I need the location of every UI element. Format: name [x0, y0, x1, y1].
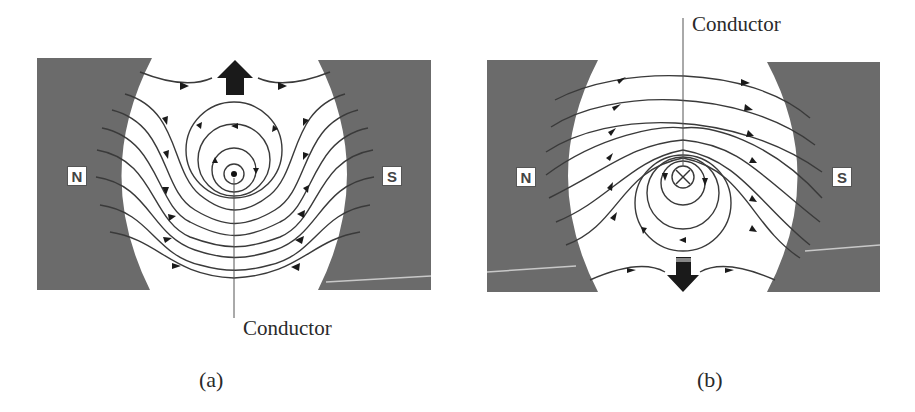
pole-label-north-b: N — [516, 167, 536, 187]
caption-b: (b) — [697, 369, 723, 391]
caption-a: (a) — [199, 369, 223, 391]
magnet-south-b — [767, 62, 880, 292]
diagram-canvas — [0, 0, 915, 412]
conductor-dot-a — [231, 171, 237, 177]
conductor-cross-b — [676, 170, 690, 184]
conductor-label-b: Conductor — [692, 14, 781, 35]
conductor-label-a: Conductor — [243, 318, 332, 339]
figure-b — [487, 18, 880, 292]
force-arrow-down-icon — [667, 257, 699, 292]
arrow-highlight — [676, 258, 691, 262]
pole-label-south-a: S — [382, 166, 402, 186]
figure-a — [37, 58, 431, 318]
magnet-north-b — [487, 60, 598, 292]
force-arrow-up-icon — [217, 60, 253, 95]
pole-label-south-b: S — [832, 167, 852, 187]
magnet-north-a — [37, 58, 152, 290]
pole-label-north-a: N — [67, 166, 87, 186]
magnet-south-a — [318, 60, 431, 290]
